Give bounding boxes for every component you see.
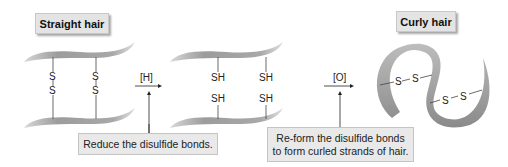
reduced-top-right: SH	[259, 73, 273, 83]
reduced-bottom-right: SH	[259, 94, 273, 104]
note-reform-line1: Re-form the disulfide bonds	[276, 132, 404, 145]
reduced-bottom-left: SH	[211, 94, 225, 104]
curly-left-s2: S	[412, 74, 419, 84]
note-reform-line2: to form curled strands of hair.	[273, 145, 409, 158]
straight-bond-top-left: S	[49, 72, 56, 82]
straight-hair-strand-top	[24, 42, 135, 62]
straight-hair-strand-bottom	[24, 108, 135, 128]
note-reform: Re-form the disulfide bonds to form curl…	[267, 127, 414, 162]
straight-hair-label: Straight hair	[35, 13, 109, 34]
straight-bond-top-right: S	[92, 72, 99, 82]
note-reduce: Reduce the disulfide bonds.	[78, 133, 218, 155]
curly-right-s1: S	[442, 96, 449, 106]
note-reduce-text: Reduce the disulfide bonds.	[83, 138, 213, 151]
curly-left-s1: S	[395, 77, 402, 87]
reagent-reduce: [H]	[140, 73, 153, 83]
curly-hair-label: Curly hair	[396, 11, 456, 32]
reduced-top-left: SH	[211, 73, 225, 83]
curly-right-s2: S	[460, 92, 467, 102]
straight-bond-bottom-right: S	[92, 86, 99, 96]
curly-hair-strand	[377, 44, 490, 128]
straight-bond-bottom-left: S	[49, 86, 56, 96]
reagent-oxidize: [O]	[333, 73, 346, 83]
